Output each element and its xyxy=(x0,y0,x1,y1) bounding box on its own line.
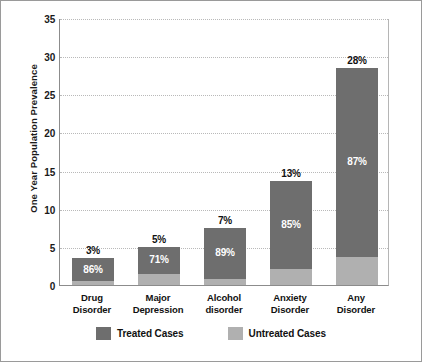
x-axis-label-line: Any xyxy=(323,292,389,304)
bar-major-depression[interactable]: 5%71% xyxy=(138,247,180,285)
x-axis-label-line: Anxiety xyxy=(257,292,323,304)
y-tick-label-30: 30 xyxy=(15,52,55,63)
plot-area: 3%86%5%71%7%89%13%85%28%87% xyxy=(59,19,389,286)
bar-total-label: 13% xyxy=(281,168,300,179)
bar-segment-untreated[interactable] xyxy=(138,274,180,285)
x-axis-label-alcohol-disorder: Alcoholdisorder xyxy=(191,292,257,315)
x-axis-label-line: Disorder xyxy=(323,304,389,316)
legend-swatch-icon xyxy=(96,327,111,340)
bar-segment-treated-label: 87% xyxy=(347,157,366,167)
x-axis-label-line: Major xyxy=(125,292,191,304)
bar-segment-treated-label: 71% xyxy=(149,255,168,265)
x-axis-label-anxiety-disorder: AnxietyDisorder xyxy=(257,292,323,315)
legend-swatch-icon xyxy=(228,327,243,340)
y-tick-label-0: 0 xyxy=(15,281,55,292)
y-tick-label-20: 20 xyxy=(15,128,55,139)
bar-anxiety-disorder[interactable]: 13%85% xyxy=(270,181,312,286)
bar-any-disorder[interactable]: 28%87% xyxy=(336,68,378,285)
gridline-35 xyxy=(60,19,388,20)
bar-segment-untreated[interactable] xyxy=(270,269,312,285)
bar-alcohol-disorder[interactable]: 7%89% xyxy=(204,228,246,285)
chart-legend: Treated CasesUntreated Cases xyxy=(1,327,421,340)
bar-segment-treated-label: 89% xyxy=(215,248,234,258)
bar-segment-treated[interactable]: 85% xyxy=(270,181,312,270)
x-axis-label-line: Alcohol xyxy=(191,292,257,304)
bar-total-label: 28% xyxy=(347,55,366,66)
bar-total-label: 5% xyxy=(152,234,166,245)
bar-drug-disorder[interactable]: 3%86% xyxy=(72,258,114,285)
bar-segment-treated-label: 85% xyxy=(281,220,300,230)
x-axis-label-line: Depression xyxy=(125,304,191,316)
y-tick-label-25: 25 xyxy=(15,90,55,101)
bar-segment-treated[interactable]: 86% xyxy=(72,258,114,281)
legend-item-untreated-cases[interactable]: Untreated Cases xyxy=(228,327,326,340)
x-axis-label-any-disorder: AnyDisorder xyxy=(323,292,389,315)
chart-frame: One Year Population Prevalence 353025201… xyxy=(0,0,422,362)
bar-segment-treated[interactable]: 71% xyxy=(138,247,180,274)
gridline-30 xyxy=(60,57,388,58)
bar-segment-treated-label: 86% xyxy=(83,265,102,275)
y-tick-label-10: 10 xyxy=(15,204,55,215)
legend-item-treated-cases[interactable]: Treated Cases xyxy=(96,327,184,340)
bar-segment-treated[interactable]: 87% xyxy=(336,68,378,257)
x-axis-label-line: disorder xyxy=(191,304,257,316)
bar-segment-untreated[interactable] xyxy=(204,279,246,285)
bar-segment-treated[interactable]: 89% xyxy=(204,228,246,279)
bar-segment-untreated[interactable] xyxy=(72,281,114,285)
y-tick-label-35: 35 xyxy=(15,14,55,25)
x-axis-label-line: Disorder xyxy=(257,304,323,316)
bar-total-label: 7% xyxy=(218,215,232,226)
x-axis-label-major-depression: MajorDepression xyxy=(125,292,191,315)
bar-segment-untreated[interactable] xyxy=(336,257,378,285)
x-axis-label-line: Drug xyxy=(59,292,125,304)
x-axis-label-drug-disorder: DrugDisorder xyxy=(59,292,125,315)
bar-total-label: 3% xyxy=(86,245,100,256)
legend-label: Untreated Cases xyxy=(249,328,326,339)
x-axis-label-line: Disorder xyxy=(59,304,125,316)
legend-label: Treated Cases xyxy=(117,328,184,339)
y-tick-label-5: 5 xyxy=(15,242,55,253)
y-axis-ticks: 35302520151050 xyxy=(11,19,55,286)
y-tick-label-15: 15 xyxy=(15,166,55,177)
